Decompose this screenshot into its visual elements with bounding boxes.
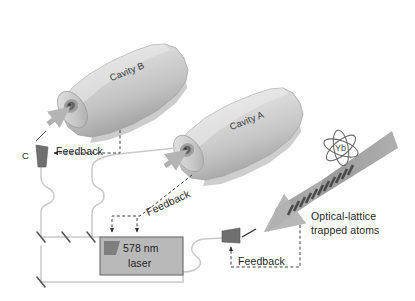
feedback-label-cavity-b: Feedback (56, 145, 103, 157)
cavity-b-body (51, 44, 188, 143)
modulator-c-label: C (22, 150, 29, 161)
feedback-label-lattice: Feedback (238, 255, 285, 267)
laser-label-line1: 578 nm (123, 242, 159, 254)
lattice-coupler (222, 228, 240, 243)
fiber-couplers (37, 232, 95, 287)
lattice-caption-line2: trapped atoms (311, 224, 379, 236)
figure-canvas: Cavity B Cavity A C Feedback Feedback Fe… (0, 0, 415, 301)
laser-label-line2: laser (128, 257, 151, 269)
yb-species-label: Yb (335, 143, 346, 154)
cavity-a-body (167, 88, 303, 186)
modulator-c (36, 145, 48, 167)
lattice-caption-line1: Optical-lattice (311, 210, 376, 222)
